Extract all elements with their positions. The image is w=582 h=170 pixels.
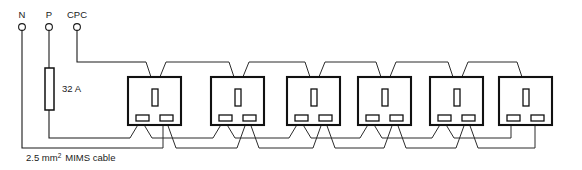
socket-1-live-slot — [136, 115, 149, 121]
wire-neutral-into-socket-3 — [313, 123, 322, 148]
cable-note-superscript: 2 — [58, 152, 62, 159]
wire-neutral-into-socket-1 — [130, 123, 163, 148]
socket-outlet-2[interactable] — [211, 77, 264, 125]
socket-2-earth-slot — [235, 89, 241, 106]
socket-5-earth-slot — [454, 89, 460, 106]
terminal-node-cpc — [74, 24, 81, 31]
cable-note-size: 2.5 mm — [26, 152, 58, 163]
wire-neutral-into-socket-2 — [237, 123, 246, 148]
socket-1-earth-slot — [152, 89, 158, 106]
socket-outlet-1[interactable] — [128, 77, 181, 125]
socket-1-neutral-slot — [160, 115, 173, 121]
socket-5-live-slot — [438, 115, 451, 121]
wiring-diagram-canvas: N P CPC — [0, 0, 582, 170]
socket-3-earth-slot — [311, 89, 317, 106]
terminal-node-neutral — [19, 24, 26, 31]
socket-outlet-4[interactable] — [358, 77, 411, 125]
wiring-diagram-svg: N P CPC — [0, 0, 582, 170]
terminal-node-phase — [46, 24, 53, 31]
wire-phase-from-fuse — [49, 110, 130, 138]
svg-text:2.5 mm2MIMS cable: 2.5 mm2MIMS cable — [26, 152, 115, 164]
cable-note-type: MIMS cable — [65, 152, 115, 163]
live-neutral-bus-group — [130, 123, 535, 148]
socket-3-live-slot — [295, 115, 308, 121]
socket-4-earth-slot — [382, 89, 388, 106]
socket-outlet-group — [128, 77, 552, 125]
wire-neutral-into-socket-5 — [456, 123, 465, 148]
terminal-label-phase: P — [46, 9, 52, 20]
socket-6-neutral-slot — [531, 115, 544, 121]
socket-outlet-5[interactable] — [430, 77, 483, 125]
terminal-cpc: CPC — [67, 9, 146, 62]
fuse-rating-label: 32 A — [62, 83, 82, 94]
terminal-label-neutral: N — [19, 9, 26, 20]
socket-6-earth-slot — [523, 89, 529, 106]
terminal-label-cpc: CPC — [67, 9, 87, 20]
socket-5-neutral-slot — [462, 115, 475, 121]
wire-neutral-socket-1-to-2 — [167, 123, 237, 148]
cable-note: 2.5 mm2MIMS cable — [26, 152, 115, 164]
socket-4-live-slot — [366, 115, 379, 121]
terminal-phase: P — [46, 9, 130, 138]
fuse-32a: 32 A — [45, 68, 82, 110]
wire-neutral-socket-5-to-6 — [469, 123, 535, 148]
socket-6-live-slot — [507, 115, 520, 121]
socket-outlet-6[interactable] — [499, 77, 552, 125]
wire-cpc-drop — [77, 31, 146, 63]
wire-neutral-into-socket-4 — [384, 123, 393, 148]
socket-outlet-3[interactable] — [287, 77, 340, 125]
socket-3-neutral-slot — [319, 115, 332, 121]
socket-4-neutral-slot — [390, 115, 403, 121]
fuse-body-rect — [45, 68, 54, 110]
supply-terminal-group: N P CPC — [19, 9, 146, 148]
socket-2-live-slot — [219, 115, 232, 121]
wire-neutral-socket-2-to-3 — [250, 123, 313, 148]
socket-2-neutral-slot — [243, 115, 256, 121]
